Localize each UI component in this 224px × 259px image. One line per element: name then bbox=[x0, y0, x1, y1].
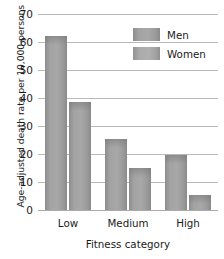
legend-label-women: Women bbox=[167, 48, 206, 60]
x-tick-label-low: Low bbox=[58, 217, 78, 229]
legend-swatch-men-icon bbox=[133, 28, 160, 41]
legend-swatch-women-icon bbox=[133, 47, 160, 60]
y-tick-label-50: 50 bbox=[20, 64, 33, 76]
bar-men-high bbox=[165, 155, 187, 210]
gridline-0 bbox=[38, 210, 218, 211]
x-axis-title: Fitness category bbox=[38, 238, 218, 250]
legend-item-men: Men bbox=[133, 26, 211, 43]
y-tick-label-70: 70 bbox=[20, 8, 33, 20]
legend-item-women: Women bbox=[133, 45, 211, 62]
y-tick-label-10: 10 bbox=[20, 176, 33, 188]
bar-women-high bbox=[189, 195, 211, 210]
bar-women-medium bbox=[129, 168, 151, 210]
x-tick-label-high: High bbox=[176, 217, 200, 229]
legend-label-men: Men bbox=[167, 29, 189, 41]
y-tick-label-30: 30 bbox=[20, 120, 33, 132]
chart-legend: Men Women bbox=[133, 26, 211, 64]
y-tick-label-40: 40 bbox=[20, 92, 33, 104]
x-tick-label-medium: Medium bbox=[107, 217, 148, 229]
y-tick-label-60: 60 bbox=[20, 36, 33, 48]
bar-women-low bbox=[69, 102, 91, 210]
bar-chart: Age-adjusted death rate per 10,000 perso… bbox=[0, 0, 224, 259]
y-tick-label-0: 0 bbox=[26, 204, 33, 216]
y-tick-label-20: 20 bbox=[20, 148, 33, 160]
bar-men-low bbox=[45, 36, 67, 210]
bar-men-medium bbox=[105, 139, 127, 210]
